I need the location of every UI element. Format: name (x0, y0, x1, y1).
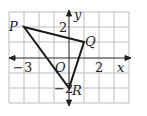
tick-label-x-2: 2 (95, 60, 103, 75)
point-label-P: P (8, 19, 18, 34)
point-label-Q: Q (85, 34, 96, 49)
origin-label: O (55, 60, 66, 75)
tick-label-y-neg2: −2 (54, 81, 73, 96)
y-axis-arrow-up (67, 10, 72, 16)
y-axis-label: y (73, 7, 82, 22)
y-axis-arrow-down (67, 100, 72, 106)
x-axis-arrow-right (125, 56, 131, 61)
x-axis-label: x (117, 60, 125, 75)
tick-label-x-neg3: −3 (13, 60, 32, 75)
tick-label-y-2: 2 (59, 20, 67, 35)
coordinate-plane: y x O −3 2 2 −2 P Q R (0, 0, 147, 116)
point-label-R: R (71, 83, 82, 98)
